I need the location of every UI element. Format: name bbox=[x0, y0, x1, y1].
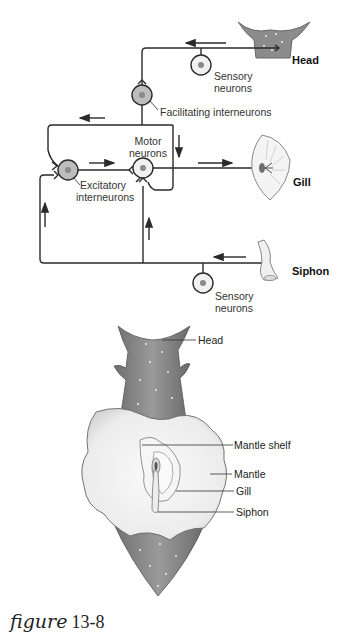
excitatory-interneuron bbox=[58, 160, 78, 180]
anatomy-label-mantle-shelf: Mantle shelf bbox=[234, 439, 291, 451]
label-head: Head bbox=[292, 54, 319, 66]
label-sensory-siphon-line1: Sensory bbox=[215, 290, 254, 302]
facilitating-interneuron bbox=[132, 85, 152, 105]
anatomy-label-siphon: Siphon bbox=[236, 506, 269, 518]
label-gill: Gill bbox=[293, 176, 311, 188]
figure-word: figure bbox=[10, 610, 67, 632]
diagram-canvas bbox=[0, 0, 344, 640]
label-motor-line1: Motor bbox=[128, 135, 168, 147]
anatomy-label-gill: Gill bbox=[236, 485, 251, 497]
label-siphon: Siphon bbox=[292, 265, 329, 277]
facilitating-label-leader bbox=[150, 101, 158, 110]
label-sensory-head-line2: neurons bbox=[214, 82, 252, 94]
figure-number: 13-8 bbox=[71, 612, 104, 632]
anatomy-label-mantle: Mantle bbox=[234, 468, 266, 480]
aplysia-anatomy bbox=[82, 326, 234, 596]
head-tissue-illustration bbox=[238, 22, 310, 58]
figure-caption: figure13-8 bbox=[10, 610, 104, 633]
label-sensory-head-line1: Sensory bbox=[214, 70, 253, 82]
sensory-neuron-siphon bbox=[193, 273, 213, 293]
label-sensory-siphon-line2: neurons bbox=[215, 302, 253, 314]
label-excitatory-line1: Excitatory bbox=[80, 179, 126, 191]
gill-illustration bbox=[252, 135, 290, 200]
sensory-neuron-head bbox=[191, 55, 211, 75]
label-motor-line2: neurons bbox=[124, 147, 172, 159]
anatomy-label-head: Head bbox=[198, 334, 223, 346]
label-facilitating-interneurons: Facilitating interneurons bbox=[160, 106, 271, 118]
motor-neuron bbox=[133, 158, 153, 178]
neural-circuit bbox=[40, 22, 310, 293]
siphon-illustration bbox=[258, 240, 278, 281]
label-excitatory-line2: interneurons bbox=[76, 191, 134, 203]
